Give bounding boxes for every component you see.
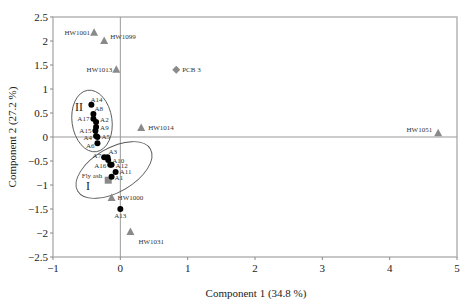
point-hw1051-label: HW1051 bbox=[406, 126, 432, 134]
point-pcb-3-diamond-marker bbox=[172, 66, 180, 74]
point-hw1001-triangle-marker bbox=[90, 28, 98, 36]
y-tick-label: 2 bbox=[43, 35, 49, 47]
pca-scatter-chart: −10123452.521.510.50−0.5−1−1.5−2−2.5 III… bbox=[0, 0, 474, 304]
point-hw1013-triangle-marker bbox=[112, 65, 120, 73]
x-tick-label: 2 bbox=[252, 262, 258, 274]
x-tick-label: 5 bbox=[454, 262, 460, 274]
point-fly-ash-label: Fly ash bbox=[82, 172, 103, 180]
y-tick-label: −2.5 bbox=[28, 251, 48, 263]
point-hw1014-triangle-marker bbox=[137, 123, 145, 131]
y-tick-label: 2.5 bbox=[34, 11, 48, 23]
point-hw1099-label: HW1099 bbox=[110, 33, 136, 41]
x-tick-label: 4 bbox=[387, 262, 393, 274]
point-a2-label: A2 bbox=[100, 116, 109, 124]
point-hw1001-label: HW1001 bbox=[64, 29, 90, 37]
point-a14-label: A14 bbox=[90, 96, 103, 104]
point-a5-circle-marker bbox=[94, 134, 100, 140]
point-a17-label: A17 bbox=[77, 115, 90, 123]
point-hw1099-triangle-marker bbox=[100, 37, 108, 45]
point-pcb-3-label: PCB 3 bbox=[182, 66, 201, 74]
chart-svg: −10123452.521.510.50−0.5−1−1.5−2−2.5 III… bbox=[0, 0, 474, 304]
y-tick-label: 1.5 bbox=[34, 59, 48, 71]
point-a13-label: A13 bbox=[114, 212, 127, 220]
point-hw1031-triangle-marker bbox=[126, 228, 134, 236]
y-tick-label: 0 bbox=[43, 131, 49, 143]
x-axis-title: Component 1 (34.8 %) bbox=[206, 287, 307, 300]
point-a8-label: A8 bbox=[94, 105, 103, 113]
cluster-ii-label: II bbox=[75, 100, 83, 114]
y-tick-label: 1 bbox=[43, 83, 49, 95]
y-tick-label: −2 bbox=[36, 227, 48, 239]
x-tick-label: 1 bbox=[185, 262, 191, 274]
y-tick-label: 0.5 bbox=[34, 107, 48, 119]
point-a1-label: A1 bbox=[115, 174, 124, 182]
point-a9-label: A9 bbox=[100, 124, 109, 132]
point-hw1031-label: HW1031 bbox=[138, 238, 164, 246]
point-a12-circle-marker bbox=[109, 162, 115, 168]
point-a5-label: A5 bbox=[101, 133, 110, 141]
point-a15-circle-marker bbox=[92, 128, 98, 134]
point-a16-label: A16 bbox=[94, 162, 107, 170]
x-tick-label: 0 bbox=[118, 262, 124, 274]
point-hw1013-label: HW1013 bbox=[87, 66, 113, 74]
x-tick-label: 3 bbox=[320, 262, 326, 274]
point-a6-label: A6 bbox=[86, 142, 95, 150]
point-hw1000-label: HW1000 bbox=[118, 194, 144, 202]
point-a7-label: A7 bbox=[93, 152, 102, 160]
cluster-i-label: I bbox=[86, 179, 90, 193]
x-tick-label: −1 bbox=[47, 262, 59, 274]
point-a4-label: A4 bbox=[84, 134, 93, 142]
point-a3-label: A3 bbox=[109, 148, 118, 156]
y-axis-title: Component 2 (27.2 %) bbox=[6, 86, 19, 187]
y-tick-label: −1 bbox=[36, 179, 48, 191]
point-a6-circle-marker bbox=[94, 140, 100, 146]
point-hw1051-triangle-marker bbox=[434, 129, 442, 137]
y-tick-label: −1.5 bbox=[28, 203, 48, 215]
y-tick-label: −0.5 bbox=[28, 155, 48, 167]
point-hw1014-label: HW1014 bbox=[148, 124, 174, 132]
